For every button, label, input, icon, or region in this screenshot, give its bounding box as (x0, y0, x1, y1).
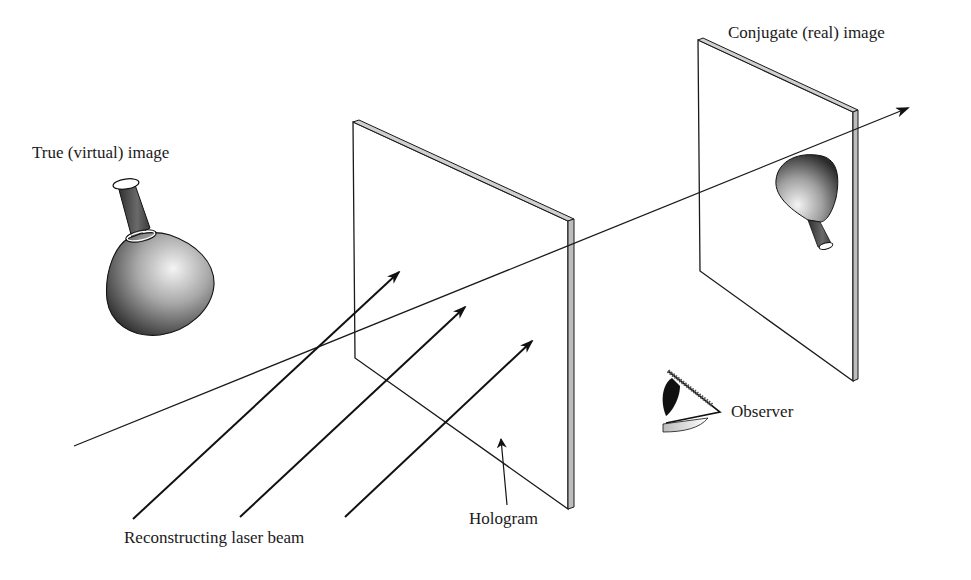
observer-eye-icon (663, 371, 720, 432)
true-image-label: True (virtual) image (32, 143, 169, 162)
conjugate-image-plane (698, 38, 858, 381)
reconstructing-beam-label: Reconstructing laser beam (124, 528, 304, 547)
hologram-label: Hologram (469, 509, 538, 528)
hologram-plate (353, 120, 574, 509)
holography-diagram: True (virtual) image Conjugate (real) im… (0, 0, 971, 580)
conjugate-image-label: Conjugate (real) image (728, 23, 885, 42)
observer-label: Observer (731, 402, 794, 421)
virtual-flask-icon (107, 177, 215, 335)
